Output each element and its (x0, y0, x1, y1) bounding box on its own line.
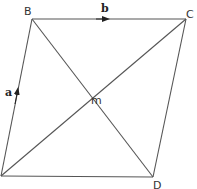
vertex-label-c: C (186, 8, 194, 21)
edge-da (1, 176, 153, 177)
vertex-label-d: D (153, 179, 161, 189)
intersection-label-m: m (91, 94, 102, 107)
vector-a-arrow-icon (15, 91, 18, 104)
vector-label-a: a (5, 86, 12, 99)
vertex-label-b: B (24, 5, 32, 18)
vector-label-b: b (101, 2, 109, 15)
parallelogram-diagram: B C D m a b (0, 0, 197, 189)
